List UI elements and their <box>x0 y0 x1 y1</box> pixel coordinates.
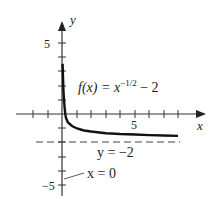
function-curve <box>63 64 178 136</box>
x-axis-arrow-icon <box>196 110 206 118</box>
x-tick-label-5: 5 <box>131 118 137 132</box>
graph-canvas: y x 5 5 −5 f(x) = x−1/2 − 2 y = −2 x = 0 <box>0 0 217 199</box>
y-tick-label-neg5: −5 <box>42 179 55 193</box>
horizontal-asymptote-label: y = −2 <box>97 145 134 160</box>
function-label: f(x) = x−1/2 − 2 <box>78 78 159 96</box>
vertical-asymptote-leader <box>64 173 84 179</box>
x-axis-label: x <box>196 118 203 133</box>
y-axis-label: y <box>68 12 76 27</box>
vertical-asymptote-label: x = 0 <box>87 166 116 181</box>
y-axis-arrow-icon <box>58 21 66 31</box>
y-tick-label-5: 5 <box>44 37 50 51</box>
